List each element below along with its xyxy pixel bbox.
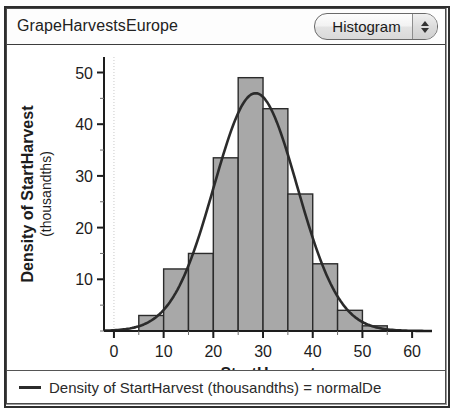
svg-text:20: 20: [75, 220, 93, 237]
plot-area: 01020304050601020304050StartHarvestDensi…: [7, 45, 445, 370]
svg-text:Density of StartHarvest: Density of StartHarvest: [19, 105, 36, 283]
line-swatch-icon: [19, 386, 41, 389]
triangle-up-icon[interactable]: [421, 21, 429, 26]
svg-text:10: 10: [155, 343, 173, 360]
page-title: GrapeHarvestsEurope: [17, 17, 178, 35]
svg-text:(thousandths): (thousandths): [38, 151, 54, 237]
histogram-chart: 01020304050601020304050StartHarvestDensi…: [7, 45, 447, 370]
plot-type-stepper[interactable]: [412, 14, 437, 39]
svg-text:10: 10: [75, 271, 93, 288]
plot-type-label: Histogram: [315, 18, 412, 35]
svg-text:30: 30: [75, 168, 93, 185]
svg-text:20: 20: [204, 343, 222, 360]
svg-text:0: 0: [109, 343, 118, 360]
triangle-down-icon[interactable]: [421, 28, 429, 33]
chart-legend: Density of StartHarvest (thousandths) = …: [7, 370, 445, 403]
svg-text:30: 30: [254, 343, 272, 360]
legend-entry-label: Density of StartHarvest (thousandths) = …: [49, 379, 381, 396]
plot-type-dropdown[interactable]: Histogram: [314, 13, 438, 40]
svg-text:50: 50: [354, 343, 372, 360]
svg-text:40: 40: [75, 116, 93, 133]
svg-text:40: 40: [304, 343, 322, 360]
svg-text:50: 50: [75, 65, 93, 82]
svg-text:60: 60: [403, 343, 421, 360]
chart-window: GrapeHarvestsEurope Histogram 0102030405…: [6, 8, 446, 404]
window-titlebar: GrapeHarvestsEurope Histogram: [7, 9, 445, 45]
